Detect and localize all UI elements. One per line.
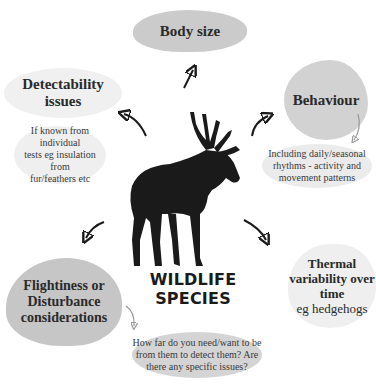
center-label: WILDLIFE SPECIES [123,270,263,308]
moose-silhouette-icon [0,0,376,385]
